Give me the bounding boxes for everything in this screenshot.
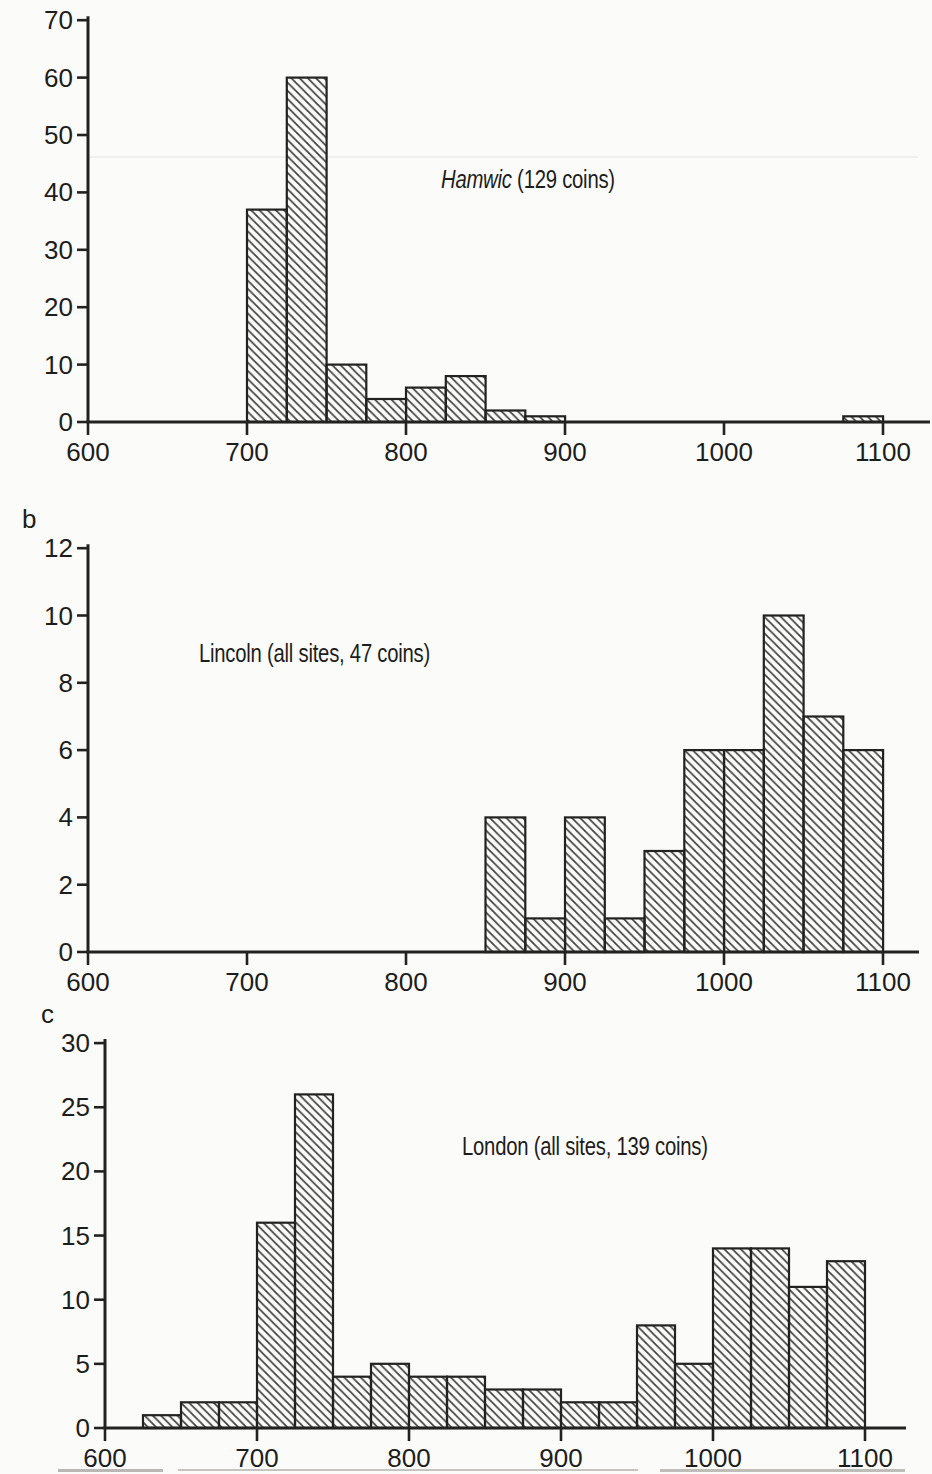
scan-artifact-bottom [660, 1469, 905, 1472]
x-tick-label: 800 [384, 437, 427, 467]
chart-c-title: London (all sites, 139 coins) [462, 1133, 708, 1160]
histogram-bar-725-750 [295, 1094, 333, 1428]
x-tick-label: 600 [66, 967, 109, 997]
y-tick-label: 25 [61, 1092, 90, 1122]
x-tick-label: 1100 [855, 437, 911, 467]
y-tick-label: 0 [59, 407, 73, 437]
histogram-bar-1000-1025 [713, 1248, 751, 1428]
histogram-bar-1075-1100 [843, 750, 883, 952]
histogram-bar-850-875 [485, 1390, 523, 1429]
histogram-bar-775-800 [371, 1364, 409, 1428]
histogram-bar-975-1000 [684, 750, 724, 952]
histogram-bar-900-925 [561, 1402, 599, 1428]
histogram-bar-700-725 [257, 1223, 295, 1428]
histogram-bar-625-650 [143, 1415, 181, 1428]
histogram-bar-900-925 [565, 817, 605, 952]
chart-panel-a: 60070080090010001100010203040506070 [44, 5, 930, 467]
histogram-bar-800-825 [409, 1377, 447, 1428]
histogram-bar-1000-1025 [724, 750, 764, 952]
x-tick-label: 700 [225, 437, 268, 467]
histogram-bar-975-1000 [675, 1364, 713, 1428]
y-tick-label: 10 [44, 601, 73, 631]
y-tick-label: 12 [44, 533, 73, 563]
histogram-bar-725-750 [287, 78, 327, 422]
histogram-bar-875-900 [525, 918, 565, 952]
y-tick-label: 70 [44, 5, 73, 35]
scan-artifact-bottom [58, 1469, 163, 1472]
histogram-bar-775-800 [366, 399, 406, 422]
x-tick-label: 1000 [695, 967, 753, 997]
panel-letter-b: b [22, 506, 36, 533]
histogram-bar-1050-1075 [804, 717, 844, 953]
x-tick-label: 900 [543, 437, 586, 467]
x-tick-label: 1000 [695, 437, 753, 467]
x-tick-label: 900 [543, 967, 586, 997]
x-tick-label: 600 [66, 437, 109, 467]
histogram-bar-1050-1075 [789, 1287, 827, 1428]
histogram-bar-925-950 [605, 918, 645, 952]
chart-a-title-rest: (129 coins) [512, 164, 615, 194]
chart-panel-b: 60070080090010001100024681012 [44, 533, 919, 997]
chart-a-title: Hamwic (129 coins) [441, 166, 615, 193]
histograms-svg: 6007008009001000110001020304050607060070… [0, 0, 932, 1474]
y-tick-label: 30 [44, 235, 73, 265]
histogram-bar-850-875 [486, 411, 526, 423]
y-tick-label: 20 [44, 292, 73, 322]
histogram-bar-1075-1100 [827, 1261, 865, 1428]
scan-artifact-line [88, 156, 918, 158]
histogram-bar-750-775 [333, 1377, 371, 1428]
histogram-bar-825-850 [446, 376, 486, 422]
y-tick-label: 60 [44, 63, 73, 93]
y-tick-label: 8 [59, 668, 73, 698]
chart-b-title-text: Lincoln (all sites, 47 coins) [199, 638, 430, 668]
histogram-bar-800-825 [406, 388, 446, 422]
y-tick-label: 50 [44, 120, 73, 150]
histogram-bar-925-950 [599, 1402, 637, 1428]
histogram-bar-825-850 [447, 1377, 485, 1428]
y-tick-label: 0 [59, 937, 73, 967]
x-tick-label: 700 [225, 967, 268, 997]
y-tick-label: 20 [61, 1156, 90, 1186]
y-tick-label: 0 [76, 1413, 90, 1443]
y-tick-label: 15 [61, 1221, 90, 1251]
figure-canvas: 6007008009001000110001020304050607060070… [0, 0, 932, 1474]
histogram-bar-950-975 [637, 1325, 675, 1428]
histogram-bar-950-975 [645, 851, 685, 952]
y-tick-label: 2 [59, 870, 73, 900]
histogram-bar-875-900 [523, 1390, 561, 1429]
y-tick-label: 6 [59, 735, 73, 765]
chart-c-title-text: London (all sites, 139 coins) [462, 1131, 708, 1161]
y-tick-label: 5 [76, 1349, 90, 1379]
histogram-bar-675-700 [219, 1402, 257, 1428]
y-tick-label: 10 [61, 1285, 90, 1315]
chart-a-title-site: Hamwic [441, 164, 512, 194]
histogram-bar-650-675 [181, 1402, 219, 1428]
scan-artifact-bottom [178, 1469, 638, 1471]
histogram-bar-850-875 [486, 817, 526, 952]
x-tick-label: 800 [384, 967, 427, 997]
chart-b-title: Lincoln (all sites, 47 coins) [199, 640, 430, 667]
histogram-bar-1025-1050 [751, 1248, 789, 1428]
y-tick-label: 10 [44, 350, 73, 380]
y-tick-label: 4 [59, 802, 73, 832]
panel-letter-c: c [41, 1001, 54, 1028]
y-tick-label: 30 [61, 1028, 90, 1058]
histogram-bar-700-725 [247, 210, 287, 422]
y-tick-label: 40 [44, 177, 73, 207]
histogram-bar-750-775 [327, 365, 367, 422]
chart-panel-c: 60070080090010001100051015202530 [61, 1028, 906, 1473]
x-tick-label: 1100 [855, 967, 911, 997]
histogram-bar-1025-1050 [764, 616, 804, 953]
